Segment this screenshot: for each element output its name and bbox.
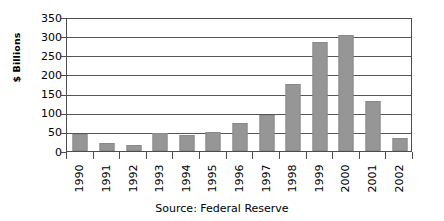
bar[interactable] xyxy=(99,143,114,151)
bar-slot xyxy=(280,19,307,151)
x-tick-label: 1994 xyxy=(180,159,191,199)
bar-slot xyxy=(94,19,121,151)
x-axis-tick-labels: 1990199119921993199419951996199719981999… xyxy=(66,159,412,195)
bar[interactable] xyxy=(259,115,274,151)
y-tick-label: 250 xyxy=(26,51,62,62)
bar[interactable] xyxy=(286,84,301,151)
x-tick-label: 2002 xyxy=(393,159,404,199)
x-tick-mark xyxy=(172,152,173,159)
bar-slot xyxy=(227,19,254,151)
bar-slot xyxy=(360,19,387,151)
x-tick-label: 1998 xyxy=(287,159,298,199)
x-tick-mark xyxy=(306,152,307,159)
bar-slot xyxy=(67,19,94,151)
bar[interactable] xyxy=(126,145,141,151)
x-tick-label: 2000 xyxy=(340,159,351,199)
y-tick-label: 150 xyxy=(26,89,62,100)
x-tick-label: 1995 xyxy=(207,159,218,199)
x-tick-mark xyxy=(146,152,147,159)
bar-slot xyxy=(147,19,174,151)
y-tick-label: 0 xyxy=(26,147,62,158)
bar[interactable] xyxy=(232,123,247,151)
x-tick-mark xyxy=(93,152,94,159)
bar-slot xyxy=(120,19,147,151)
y-tick-label: 350 xyxy=(26,13,62,24)
x-tick-label: 1993 xyxy=(154,159,165,199)
x-tick-mark xyxy=(385,152,386,159)
x-tick-mark xyxy=(279,152,280,159)
x-tick-label: 1991 xyxy=(100,159,111,199)
x-tick-mark xyxy=(359,152,360,159)
x-tick-mark xyxy=(332,152,333,159)
x-tick-mark xyxy=(119,152,120,159)
plot-area xyxy=(66,18,412,152)
y-tick-label: 50 xyxy=(26,127,62,138)
x-tick-label: 1992 xyxy=(127,159,138,199)
bar-slot xyxy=(386,19,413,151)
x-tick-label: 1999 xyxy=(313,159,324,199)
bar-slot xyxy=(333,19,360,151)
y-tick-label: 300 xyxy=(26,32,62,43)
y-axis-title: $ Billions xyxy=(11,18,22,98)
bar-slot xyxy=(200,19,227,151)
bar[interactable] xyxy=(392,138,407,151)
y-tick-label: 200 xyxy=(26,70,62,81)
x-tick-label: 1997 xyxy=(260,159,271,199)
bar[interactable] xyxy=(366,101,381,151)
x-tick-mark xyxy=(226,152,227,159)
bar[interactable] xyxy=(153,133,168,151)
y-tick-label: 100 xyxy=(26,108,62,119)
x-tick-mark xyxy=(199,152,200,159)
bar-slot xyxy=(253,19,280,151)
bar-slot xyxy=(173,19,200,151)
x-tick-mark xyxy=(252,152,253,159)
bar-chart: $ Billions 350300250200150100500 1990199… xyxy=(0,0,444,221)
y-axis-tick-labels: 350300250200150100500 xyxy=(26,18,62,152)
bar[interactable] xyxy=(206,132,221,151)
x-tick-mark xyxy=(66,152,67,159)
x-tick-label: 1990 xyxy=(74,159,85,199)
source-caption: Source: Federal Reserve xyxy=(0,203,444,215)
bar[interactable] xyxy=(339,35,354,151)
bar-slot xyxy=(307,19,334,151)
bar[interactable] xyxy=(179,135,194,151)
bar[interactable] xyxy=(312,42,327,151)
bars-container xyxy=(67,19,411,151)
x-tick-label: 2001 xyxy=(367,159,378,199)
x-tick-mark xyxy=(412,152,413,159)
bar[interactable] xyxy=(73,134,88,151)
x-tick-label: 1996 xyxy=(234,159,245,199)
